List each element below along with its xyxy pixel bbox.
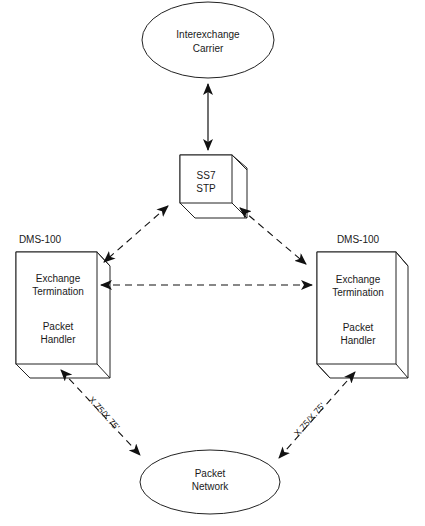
network-diagram: Interexchange Carrier SS7 STP DMS-100 Ex… [0,0,425,526]
dms-left-title: DMS-100 [19,234,62,245]
interexchange-carrier-label-1: Interexchange [176,29,240,40]
ss7-stp-node: SS7 STP [180,155,247,218]
dms-left-label-3: Packet [43,321,74,332]
dms-left-label-2: Termination [32,286,84,297]
ss7-stp-label-2: STP [196,183,216,194]
dms-right-label-4: Handler [340,335,376,346]
dms-right-label-3: Packet [343,322,374,333]
x75-left-label: X.75/X.75' [87,395,122,433]
interexchange-carrier-label-2: Carrier [193,43,224,54]
dms-left-label-4: Handler [40,334,76,345]
packet-network-label-1: Packet [195,468,226,479]
interexchange-carrier-node: Interexchange Carrier [142,2,274,78]
dms-right-node: DMS-100 Exchange Termination Packet Hand… [317,234,408,378]
packet-network-node: Packet Network [140,450,280,514]
interexchange-carrier-ellipse [142,2,274,78]
dms-right-label-2: Termination [332,287,384,298]
dms-left-box-front [16,252,97,364]
x75-right-label: X.75/X.75' [292,401,327,439]
dms-right-box-front [317,252,396,364]
dms-left-label-1: Exchange [36,273,81,284]
dms-right-title: DMS-100 [337,234,380,245]
dms-left-node: DMS-100 Exchange Termination Packet Hand… [16,234,110,378]
stp-dms-right-link [240,208,306,264]
ss7-stp-label-1: SS7 [197,170,216,181]
stp-dms-left-link [104,206,168,262]
packet-network-label-2: Network [192,481,230,492]
dms-right-label-1: Exchange [336,274,381,285]
